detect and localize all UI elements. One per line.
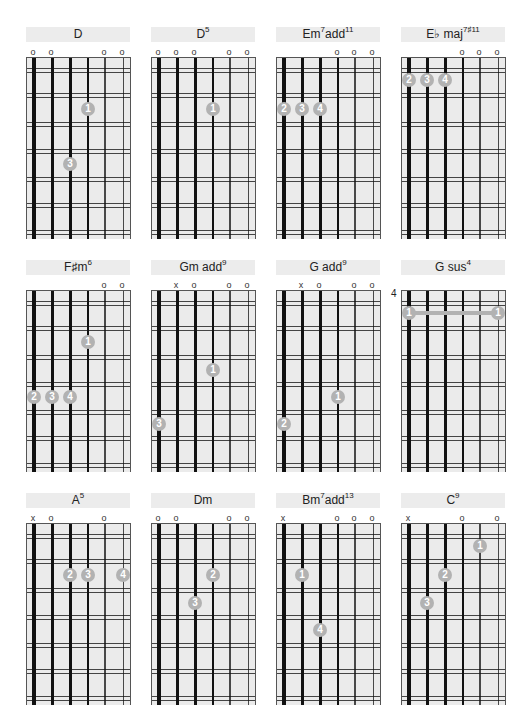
open-string-marker: o xyxy=(224,280,234,290)
fret-line xyxy=(152,669,255,674)
finger-dot: 3 xyxy=(63,157,77,171)
chord-extension: 7 xyxy=(321,25,325,34)
fret-line xyxy=(27,326,130,331)
finger-dot: 4 xyxy=(313,623,327,637)
guitar-string xyxy=(87,58,89,239)
open-string-marker: o xyxy=(99,513,109,523)
open-string-marker: o xyxy=(242,280,252,290)
fret-line xyxy=(27,410,130,415)
fretboard-grid: 14 xyxy=(276,523,381,705)
finger-dot: 2 xyxy=(63,568,77,582)
muted-string-marker: x xyxy=(278,513,288,523)
chord-extension: 4 xyxy=(466,258,470,267)
open-string-marker: o xyxy=(99,47,109,57)
finger-dot: 2 xyxy=(402,73,416,87)
fret-line xyxy=(402,643,505,648)
finger-dot: 1 xyxy=(81,102,95,116)
guitar-string xyxy=(212,524,214,705)
fret-line xyxy=(27,696,130,701)
guitar-string xyxy=(426,524,429,705)
finger-dot: 2 xyxy=(27,390,41,404)
finger-dot: 4 xyxy=(116,568,130,582)
guitar-string xyxy=(176,291,179,472)
fret-line xyxy=(27,122,130,127)
chord-name: A5 xyxy=(26,493,130,508)
barre-line xyxy=(409,311,498,315)
fret-line xyxy=(277,68,380,73)
fretboard-grid: 13 xyxy=(26,57,131,239)
fret-line xyxy=(277,382,380,387)
chord-extension: 9 xyxy=(222,258,226,267)
open-string-marker: o xyxy=(224,513,234,523)
fret-line xyxy=(402,355,505,360)
fret-line xyxy=(277,615,380,620)
guitar-string xyxy=(229,524,231,705)
guitar-string xyxy=(176,524,179,705)
finger-dot: 1 xyxy=(402,306,416,320)
chord-name: Em7add11 xyxy=(276,27,380,42)
open-string-marker: o xyxy=(46,513,56,523)
guitar-string xyxy=(69,58,72,239)
fret-line xyxy=(152,534,255,539)
chord-name: D5 xyxy=(151,27,255,42)
guitar-string xyxy=(51,58,54,239)
guitar-string xyxy=(319,291,322,472)
open-string-marker: o xyxy=(349,280,359,290)
guitar-string xyxy=(319,58,322,239)
open-string-marker: o xyxy=(367,513,377,523)
fret-line xyxy=(27,355,130,360)
guitar-string xyxy=(248,291,249,472)
guitar-string xyxy=(354,524,356,705)
fret-line xyxy=(402,93,505,98)
open-string-marker: o xyxy=(457,47,467,57)
muted-string-marker: x xyxy=(171,280,181,290)
chord-name: F♯m6 xyxy=(26,260,130,275)
chord-extension: 5 xyxy=(80,491,84,500)
fret-line xyxy=(402,68,505,73)
fret-line xyxy=(27,588,130,593)
chord-extension: 6 xyxy=(87,258,91,267)
chord-diagram: Doooo13 xyxy=(26,27,130,247)
fret-line xyxy=(277,230,380,235)
finger-dot: 2 xyxy=(277,102,291,116)
guitar-string xyxy=(123,291,124,472)
fret-line xyxy=(402,410,505,415)
guitar-string xyxy=(212,291,214,472)
guitar-string xyxy=(69,291,72,472)
finger-dot: 1 xyxy=(206,363,220,377)
finger-dot: 1 xyxy=(206,102,220,116)
fret-line xyxy=(27,436,130,441)
finger-dot: 3 xyxy=(420,73,434,87)
guitar-string xyxy=(301,524,304,705)
fretboard-grid: 1 xyxy=(151,57,256,239)
fret-line xyxy=(402,149,505,154)
finger-dot: 1 xyxy=(81,335,95,349)
chord-diagram: G sus4411 xyxy=(401,260,505,480)
fret-line xyxy=(152,122,255,127)
fret-line xyxy=(277,301,380,306)
open-string-marker: o xyxy=(153,513,163,523)
finger-dot: 2 xyxy=(277,417,291,431)
fretboard-grid: 234 xyxy=(401,57,506,239)
fret-line xyxy=(152,177,255,182)
fret-line xyxy=(152,436,255,441)
fret-line xyxy=(402,230,505,235)
fret-line xyxy=(152,463,255,468)
finger-dot: 3 xyxy=(45,390,59,404)
guitar-string xyxy=(462,291,464,472)
open-string-marker: o xyxy=(28,47,38,57)
chord-extension: 7♯11 xyxy=(463,25,480,34)
fret-line xyxy=(27,615,130,620)
fret-line xyxy=(402,122,505,127)
fretboard-grid: 123 xyxy=(401,523,506,705)
fret-line xyxy=(277,643,380,648)
guitar-string xyxy=(104,291,106,472)
guitar-string xyxy=(337,291,339,472)
fret-line xyxy=(277,436,380,441)
chord-extension-2: 11 xyxy=(345,25,353,34)
fret-line xyxy=(27,149,130,154)
open-string-marker: o xyxy=(117,47,127,57)
guitar-string xyxy=(157,524,161,705)
open-string-marker: o xyxy=(242,47,252,57)
chord-diagram: E♭ maj7♯11ooo234 xyxy=(401,27,505,247)
